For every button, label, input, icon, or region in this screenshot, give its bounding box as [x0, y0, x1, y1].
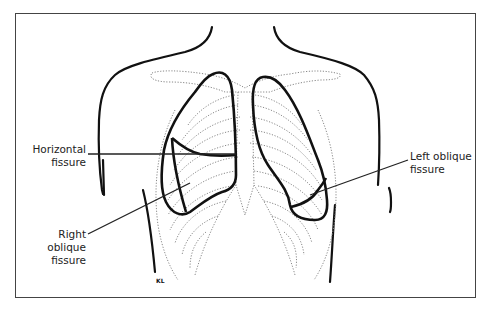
artist-initials: KL: [156, 277, 164, 284]
lungs: [162, 73, 328, 220]
horizontal-fissure-label: Horizontal fissure: [20, 143, 86, 169]
left-oblique-fissure-label: Left oblique fissure: [410, 150, 476, 176]
label-line: Left oblique: [410, 150, 476, 163]
leader-lines: [88, 154, 408, 234]
label-line: fissure: [410, 163, 476, 176]
left-oblique-fissure: [291, 178, 326, 207]
horizontal-fissure: [172, 138, 236, 156]
left-lung-outline: [253, 77, 327, 220]
right-oblique-fissure-label: Right oblique fissure: [20, 228, 86, 267]
label-line: Horizontal: [20, 143, 86, 156]
right-oblique-fissure: [172, 138, 186, 212]
label-line: fissure: [20, 254, 86, 267]
label-line: Right oblique: [20, 228, 86, 254]
label-line: fissure: [20, 156, 86, 169]
clavicles: [151, 71, 340, 92]
